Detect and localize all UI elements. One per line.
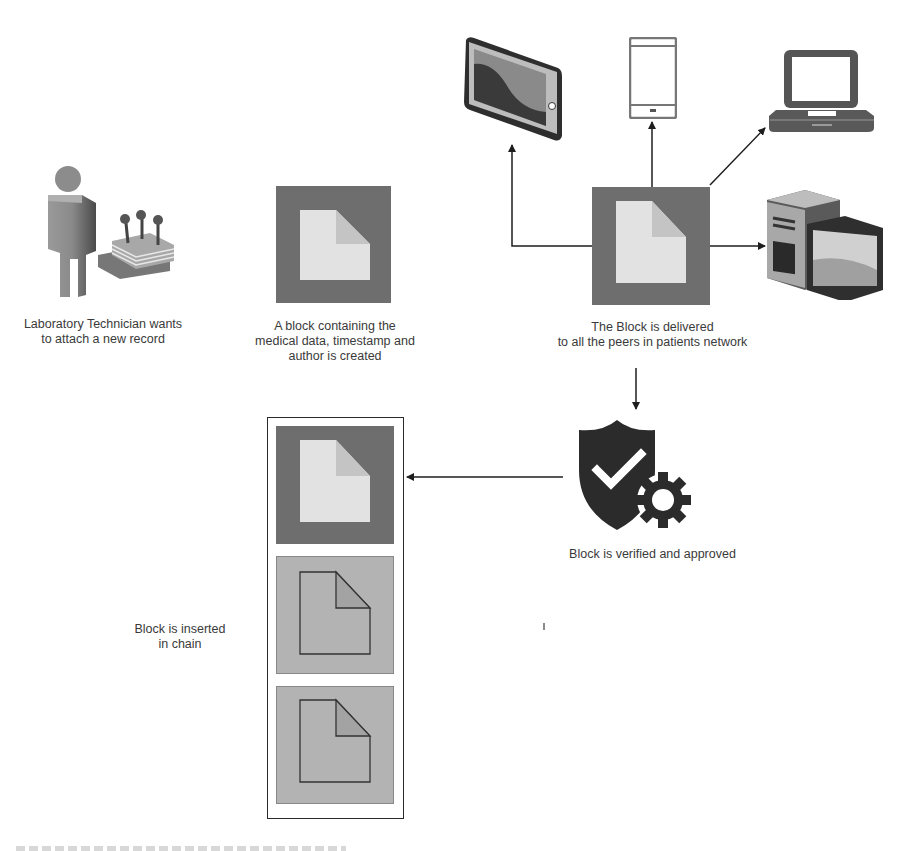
block-created-label-line1: A block containing the bbox=[245, 319, 425, 334]
chain-block-existing bbox=[276, 556, 394, 674]
block-created-icon bbox=[276, 186, 391, 303]
block-delivered-label: The Block is delivered to all the peers … bbox=[535, 320, 770, 350]
person-with-equipment-icon bbox=[38, 163, 188, 303]
block-created-label-line3: author is created bbox=[245, 349, 425, 364]
block-created-label-line2: medical data, timestamp and bbox=[245, 334, 425, 349]
block-delivered-label-line2: to all the peers in patients network bbox=[535, 335, 770, 350]
block-delivered-label-line1: The Block is delivered bbox=[535, 320, 770, 335]
edge-block-to-laptop bbox=[710, 128, 765, 185]
chain-block-new bbox=[276, 426, 394, 544]
blockchain-container bbox=[267, 417, 404, 819]
technician-label-line1: Laboratory Technician wants bbox=[18, 317, 188, 332]
laptop-icon bbox=[768, 48, 876, 133]
edge-block-to-tablet bbox=[512, 145, 592, 246]
chain-label-line1: Block is inserted bbox=[130, 622, 230, 637]
smartphone-icon bbox=[629, 37, 677, 119]
tablet-icon bbox=[462, 34, 567, 144]
chain-block-existing bbox=[276, 686, 394, 804]
block-created-label: A block containing the medical data, tim… bbox=[245, 319, 425, 364]
stray-mark bbox=[543, 623, 545, 630]
shield-check-gear-icon bbox=[575, 418, 703, 538]
technician-label: Laboratory Technician wants to attach a … bbox=[18, 317, 188, 347]
connectors-layer bbox=[0, 0, 898, 851]
chain-label-line2: in chain bbox=[130, 637, 230, 652]
block-delivered-icon bbox=[592, 187, 710, 305]
desktop-computer-icon bbox=[765, 190, 885, 300]
figure-caption-cutoff bbox=[16, 846, 346, 851]
chain-label: Block is inserted in chain bbox=[130, 622, 230, 652]
verified-label: Block is verified and approved bbox=[540, 547, 765, 562]
technician-label-line2: to attach a new record bbox=[18, 332, 188, 347]
